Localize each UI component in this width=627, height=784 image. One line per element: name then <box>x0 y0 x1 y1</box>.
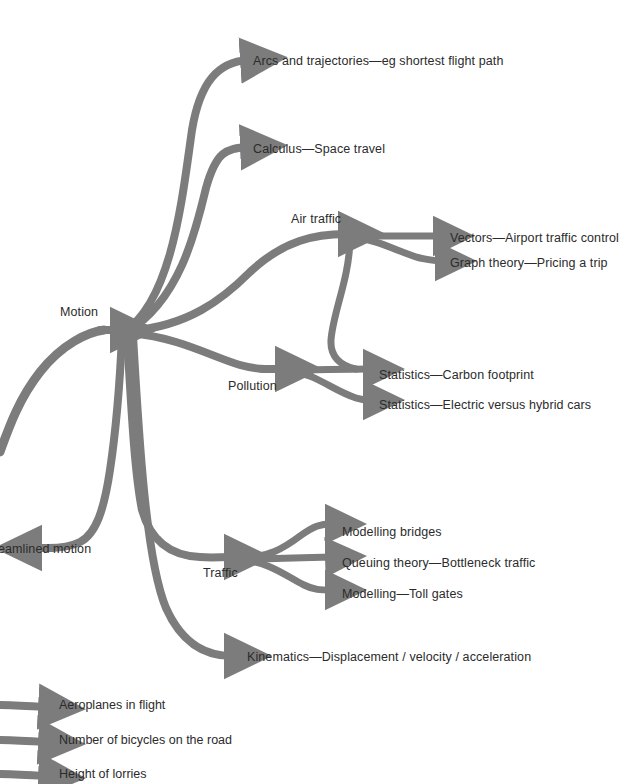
node-traffic[interactable]: Traffic <box>203 566 238 580</box>
legend-item-number-of-bicycles[interactable]: Number of bicycles on the road <box>59 733 232 747</box>
node-calculus-space-travel[interactable]: Calculus—Space travel <box>253 142 385 156</box>
branch-streamlined-outer <box>48 336 122 548</box>
legend-item-aeroplanes-in-flight[interactable]: Aeroplanes in flight <box>59 698 165 712</box>
node-statistics-electric-versus-hybrid-cars[interactable]: Statistics—Electric versus hybrid cars <box>379 398 591 412</box>
node-graph-theory-pricing-a-trip[interactable]: Graph theory—Pricing a trip <box>450 256 608 270</box>
legend-stroke-bicycles <box>0 740 46 742</box>
branch-toll-gates <box>240 560 332 590</box>
node-modelling-toll-gates[interactable]: Modelling—Toll gates <box>342 587 463 601</box>
legend-stroke-aeroplanes <box>0 705 46 707</box>
node-motion[interactable]: Motion <box>60 305 98 319</box>
node-statistics-carbon-footprint[interactable]: Statistics—Carbon footprint <box>379 368 534 382</box>
mind-map-canvas: Motion Arcs and trajectories—eg shortest… <box>0 0 627 784</box>
node-vectors-airport-traffic-control[interactable]: Vectors—Airport traffic control <box>450 231 619 245</box>
node-arcs-and-trajectories[interactable]: Arcs and trajectories—eg shortest flight… <box>253 54 503 68</box>
node-pollution[interactable]: Pollution <box>228 379 277 393</box>
legend-item-height-of-lorries[interactable]: Height of lorries <box>59 767 147 781</box>
node-streamlined-motion[interactable]: eamlined motion <box>0 542 91 556</box>
branch-strokes <box>0 0 627 784</box>
branch-graph-theory <box>352 237 442 261</box>
branch-motion-hub <box>0 330 104 452</box>
branch-pollution <box>131 333 283 369</box>
branch-kinematics <box>133 336 232 656</box>
node-kinematics-displacement-velocity-acceleration[interactable]: Kinematics—Displacement / velocity / acc… <box>247 650 531 664</box>
node-air-traffic[interactable]: Air traffic <box>291 212 341 226</box>
branch-electric-hybrid <box>290 371 370 400</box>
node-queuing-theory-bottleneck-traffic[interactable]: Queuing theory—Bottleneck traffic <box>342 556 535 570</box>
branch-air-traffic-to-pollution-link <box>331 240 356 369</box>
legend-stroke-lorries <box>0 774 46 776</box>
branch-modelling-bridges <box>240 524 332 558</box>
node-modelling-bridges[interactable]: Modelling bridges <box>342 525 442 539</box>
